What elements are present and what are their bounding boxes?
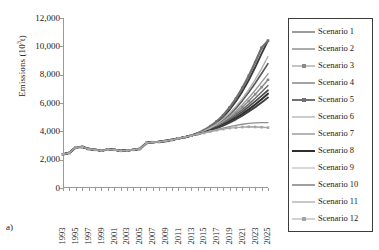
y-axis-tick	[60, 188, 63, 189]
x-tick-label: 2009	[160, 227, 169, 244]
x-axis-tick	[268, 188, 269, 191]
legend-swatch-icon	[292, 60, 315, 71]
series-marker	[260, 46, 263, 49]
series-marker	[235, 126, 238, 129]
x-tick-label: 2021	[237, 227, 246, 244]
legend-item-7[interactable]: Scenario 7	[291, 125, 370, 142]
series-marker	[228, 106, 231, 109]
series-marker	[107, 148, 110, 151]
series-marker	[247, 100, 250, 103]
y-axis-tick	[60, 18, 63, 19]
series-marker	[247, 75, 250, 78]
x-tick-label: 2025	[263, 227, 272, 244]
series-marker	[164, 140, 167, 143]
x-tick-label: 2017	[212, 227, 221, 244]
series-marker	[228, 127, 231, 130]
x-tick-label: 2007	[148, 227, 157, 244]
legend-label: Scenario 6	[318, 112, 354, 121]
series-marker	[215, 129, 218, 132]
legend-item-2[interactable]: Scenario 2	[291, 40, 370, 57]
legend-swatch-icon	[292, 145, 315, 156]
legend-swatch-icon	[292, 162, 315, 173]
series-marker	[62, 153, 65, 156]
legend-label: Scenario 10	[318, 180, 358, 189]
legend-marker-icon	[302, 98, 306, 102]
legend-item-9[interactable]: Scenario 9	[291, 159, 370, 176]
series-marker	[113, 148, 116, 151]
y-tick-label: 0	[14, 184, 60, 193]
legend-label: Scenario 8	[318, 146, 354, 155]
legend-label: Scenario 7	[318, 129, 354, 138]
legend-swatch-icon	[292, 213, 315, 224]
series-marker	[247, 126, 250, 129]
legend-item-1[interactable]: Scenario 1	[291, 23, 370, 40]
x-tick-label: 2011	[173, 227, 182, 244]
legend-item-8[interactable]: Scenario 8	[291, 142, 370, 159]
legend-label: Scenario 2	[318, 44, 354, 53]
series-marker	[209, 130, 212, 133]
legend-swatch-icon	[292, 179, 315, 190]
legend-item-6[interactable]: Scenario 6	[291, 108, 370, 125]
series-marker	[260, 126, 263, 129]
legend-label: Scenario 11	[318, 197, 358, 206]
x-tick-label: 2015	[199, 227, 208, 244]
panel-letter: a)	[6, 222, 13, 232]
x-tick-label: 1993	[58, 227, 67, 244]
y-tick-label: 12,000	[14, 14, 60, 23]
series-marker	[68, 152, 71, 155]
y-tick-label: 6,000	[14, 99, 60, 108]
legend-swatch-icon	[292, 111, 315, 122]
series-marker	[241, 87, 244, 90]
y-tick-label: 2,000	[14, 155, 60, 164]
legend-swatch-icon	[292, 94, 315, 105]
x-tick-label: 2001	[109, 227, 118, 244]
series-marker	[267, 78, 270, 81]
x-tick-label: 1997	[84, 227, 93, 244]
series-marker	[139, 148, 142, 151]
x-tick-label: 2005	[135, 227, 144, 244]
series-marker	[260, 86, 263, 89]
legend-swatch-icon	[292, 77, 315, 88]
series-marker	[87, 148, 90, 151]
legend-item-10[interactable]: Scenario 10	[291, 176, 370, 193]
legend-label: Scenario 5	[318, 95, 354, 104]
legend-label: Scenario 12	[318, 214, 358, 223]
series-marker	[158, 141, 161, 144]
y-axis-tick-labels: 12,00010,0008,0006,0004,0002,0000	[12, 0, 60, 250]
x-tick-label: 1995	[71, 227, 80, 244]
legend-label: Scenario 1	[318, 27, 354, 36]
legend-marker-icon	[302, 64, 306, 68]
series-marker	[177, 137, 180, 140]
series-marker	[196, 133, 199, 136]
series-marker	[203, 132, 206, 135]
series-marker	[183, 136, 186, 139]
legend-item-5[interactable]: Scenario 5	[291, 91, 370, 108]
legend-item-4[interactable]: Scenario 4	[291, 74, 370, 91]
series-marker	[145, 142, 148, 145]
series-marker	[215, 120, 218, 123]
series-marker	[222, 128, 225, 131]
series-marker	[132, 148, 135, 151]
series-marker	[254, 126, 257, 129]
series-line	[63, 57, 268, 155]
series-marker	[254, 61, 257, 64]
legend-swatch-icon	[292, 26, 315, 37]
series-marker	[94, 148, 97, 151]
series-marker	[151, 141, 154, 144]
legend-label: Scenario 4	[318, 78, 354, 87]
series-marker	[81, 146, 84, 149]
series-line	[63, 94, 268, 155]
plot-area	[63, 18, 268, 188]
series-marker	[119, 149, 122, 152]
y-tick-label: 4,000	[14, 127, 60, 136]
legend-item-3[interactable]: Scenario 3	[291, 57, 370, 74]
y-axis-tick	[60, 75, 63, 76]
x-axis-tick-labels: 1993199519971999200120032005200720092011…	[63, 190, 268, 250]
legend-item-12[interactable]: Scenario 12	[291, 210, 370, 227]
y-tick-label: 8,000	[14, 70, 60, 79]
legend-item-11[interactable]: Scenario 11	[291, 193, 370, 210]
y-axis-tick	[60, 103, 63, 104]
x-tick-label: 2019	[224, 227, 233, 244]
series-marker	[267, 126, 270, 129]
series-marker	[254, 93, 257, 96]
